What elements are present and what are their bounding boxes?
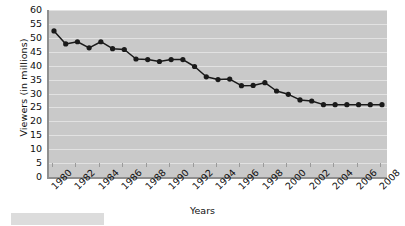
x-tick-label: 2000 <box>283 167 308 192</box>
x-axis-tick-labels: 1980198219841986198819901992199419961998… <box>0 0 405 226</box>
x-tick-label: 1990 <box>166 167 191 192</box>
x-tick-mark <box>357 163 358 167</box>
x-tick-mark <box>169 163 170 167</box>
x-tick-label: 2006 <box>354 167 379 192</box>
x-tick-mark <box>75 163 76 167</box>
x-tick-mark <box>380 163 381 167</box>
x-tick-label: 1982 <box>72 167 97 192</box>
line-chart: Viewers (in millions) 051015202530354045… <box>0 0 405 226</box>
x-tick-mark <box>333 163 334 167</box>
scan-artifact-block <box>11 213 104 225</box>
x-tick-mark <box>263 163 264 167</box>
x-tick-label: 1984 <box>96 167 121 192</box>
x-tick-label: 2002 <box>307 167 332 192</box>
x-tick-label: 2004 <box>330 167 355 192</box>
x-tick-mark <box>99 163 100 167</box>
x-tick-label: 1994 <box>213 167 238 192</box>
x-tick-mark <box>216 163 217 167</box>
x-tick-mark <box>122 163 123 167</box>
x-tick-label: 1992 <box>190 167 215 192</box>
x-tick-mark <box>310 163 311 167</box>
x-tick-mark <box>239 163 240 167</box>
x-tick-mark <box>286 163 287 167</box>
x-tick-mark <box>52 163 53 167</box>
x-tick-label: 1980 <box>49 167 74 192</box>
x-tick-label: 1996 <box>236 167 261 192</box>
x-tick-label: 2008 <box>377 167 402 192</box>
x-tick-label: 1998 <box>260 167 285 192</box>
x-tick-mark <box>193 163 194 167</box>
x-tick-mark <box>146 163 147 167</box>
x-tick-label: 1986 <box>119 167 144 192</box>
x-tick-label: 1988 <box>143 167 168 192</box>
